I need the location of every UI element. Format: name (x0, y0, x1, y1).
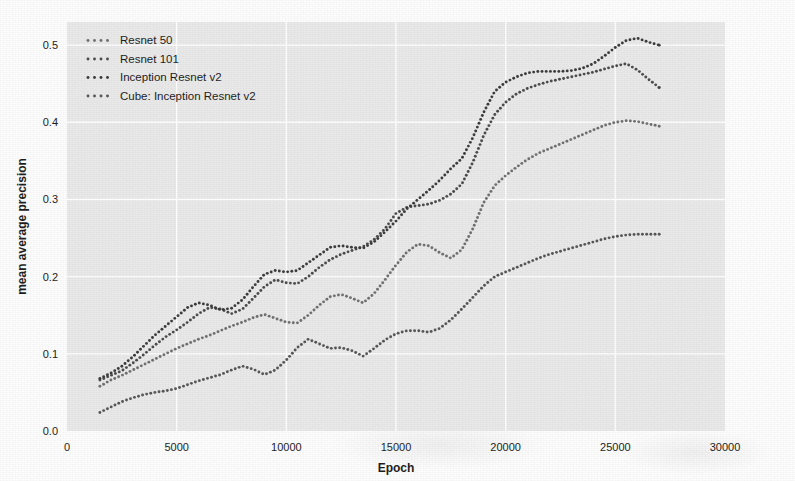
data-marker (629, 120, 632, 123)
data-marker (151, 359, 154, 362)
data-marker (419, 196, 422, 199)
data-marker (520, 162, 523, 165)
data-marker (403, 210, 406, 213)
data-marker (400, 213, 403, 216)
data-marker (140, 364, 143, 367)
data-marker (310, 339, 313, 342)
data-marker (194, 381, 197, 384)
data-marker (282, 270, 285, 273)
data-marker (357, 299, 360, 302)
data-marker (270, 271, 273, 274)
data-marker (490, 190, 493, 193)
data-marker (136, 366, 139, 369)
data-marker (358, 246, 361, 249)
data-marker (390, 219, 393, 222)
data-marker (604, 237, 607, 240)
data-marker (550, 80, 553, 83)
data-marker (375, 345, 378, 348)
data-marker (296, 321, 299, 324)
data-marker (474, 293, 477, 296)
data-marker (502, 104, 505, 107)
data-marker (298, 267, 301, 270)
data-marker (621, 42, 624, 45)
data-marker (389, 271, 392, 274)
data-marker (337, 245, 340, 248)
data-marker (479, 143, 482, 146)
data-marker (607, 66, 610, 69)
data-marker (483, 284, 486, 287)
data-marker (170, 388, 173, 391)
data-marker (183, 309, 186, 312)
data-marker (608, 236, 611, 239)
data-marker (476, 126, 479, 129)
data-marker (106, 381, 109, 384)
data-marker (405, 329, 408, 332)
data-marker (475, 151, 478, 154)
data-marker (411, 246, 414, 249)
data-marker (362, 246, 365, 249)
data-marker (386, 228, 389, 231)
data-marker (397, 332, 400, 335)
data-marker (449, 167, 452, 170)
data-marker (129, 397, 132, 400)
data-marker (591, 241, 594, 244)
data-marker (155, 343, 158, 346)
data-marker (203, 309, 206, 312)
data-marker (240, 299, 243, 302)
data-marker (594, 61, 597, 64)
data-marker (373, 291, 376, 294)
data-marker (466, 302, 469, 305)
data-marker (199, 311, 202, 314)
data-marker (158, 340, 161, 343)
data-marker (438, 327, 441, 330)
data-marker (125, 399, 128, 402)
data-marker (516, 266, 519, 269)
data-marker (288, 321, 291, 324)
data-marker (280, 319, 283, 322)
data-marker (520, 74, 523, 77)
data-marker (445, 255, 448, 258)
data-marker (443, 174, 446, 177)
data-marker (172, 331, 175, 334)
data-marker (644, 76, 647, 79)
data-marker (124, 362, 127, 365)
data-marker (528, 71, 531, 74)
data-marker (257, 371, 260, 374)
data-marker (418, 243, 421, 246)
data-marker (542, 82, 545, 85)
data-marker (331, 257, 334, 260)
data-marker (122, 369, 125, 372)
data-marker (262, 286, 265, 289)
data-marker (180, 312, 183, 315)
data-marker (520, 264, 523, 267)
data-marker (499, 107, 502, 110)
data-marker (542, 150, 545, 153)
data-marker (589, 130, 592, 133)
data-marker (531, 259, 534, 262)
data-marker (120, 365, 123, 368)
data-marker (324, 262, 327, 265)
data-marker (481, 114, 484, 117)
data-marker (491, 117, 494, 120)
data-marker (473, 133, 476, 136)
data-marker (512, 267, 515, 270)
data-marker (264, 313, 267, 316)
data-marker (628, 233, 631, 236)
x-tick-label: 0 (64, 441, 70, 453)
legend-marker (100, 95, 103, 98)
data-marker (193, 339, 196, 342)
data-marker (408, 249, 411, 252)
data-marker (550, 146, 553, 149)
data-marker (173, 317, 176, 320)
data-marker (483, 201, 486, 204)
data-marker (297, 281, 300, 284)
data-marker (121, 374, 124, 377)
data-marker (230, 369, 233, 372)
legend-marker (100, 58, 103, 61)
data-marker (162, 390, 165, 393)
data-marker (328, 259, 331, 262)
data-marker (571, 246, 574, 249)
data-marker (266, 284, 269, 287)
data-marker (387, 222, 390, 225)
data-marker (524, 160, 527, 163)
